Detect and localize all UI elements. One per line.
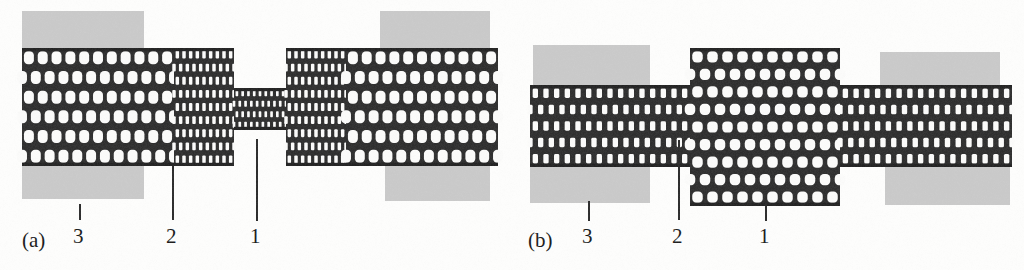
nanotube-right_segment-panel-2 (840, 85, 1012, 167)
nanotube-mid_segment-panel-1 (174, 48, 234, 166)
annotation-label-2: 2 (166, 226, 177, 247)
nanotube-bulge_segment-panel-2 (690, 48, 840, 206)
nanotube-right_mid-panel-1 (286, 48, 346, 166)
electrode-bottom-left (530, 165, 650, 203)
annotation-label-1: 1 (759, 226, 770, 247)
electrode-top-left (533, 45, 650, 86)
leader-line-3 (79, 204, 81, 220)
electrode-top-right (880, 52, 1000, 87)
annotation-label-2: 2 (672, 226, 683, 247)
leader-line-2 (678, 140, 680, 220)
electrode-top-left (22, 11, 144, 52)
leader-line-1 (256, 139, 258, 221)
electrode-bottom-left (22, 163, 144, 199)
leader-line-1 (765, 191, 767, 221)
electrode-top-right (380, 11, 490, 52)
annotation-label-3: 3 (582, 226, 593, 247)
leader-line-3 (588, 201, 590, 221)
figure-canvas: 321(a)321(b) (0, 0, 1024, 270)
panel-tag-2: (b) (528, 228, 553, 253)
nanotube-right_segment-panel-1 (346, 48, 498, 166)
nanotube-left_segment-panel-1 (22, 48, 174, 166)
electrode-bottom-right (885, 165, 1010, 205)
annotation-label-1: 1 (250, 226, 261, 247)
panel-tag-1: (a) (22, 228, 45, 253)
annotation-label-3: 3 (73, 226, 84, 247)
nanotube-left_segment-panel-2 (530, 85, 690, 167)
leader-line-2 (172, 166, 174, 220)
nanotube-neck_segment-panel-1 (234, 88, 286, 130)
electrode-bottom-right (385, 163, 490, 201)
